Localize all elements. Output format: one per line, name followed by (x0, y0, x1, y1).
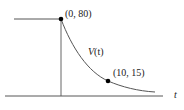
point-10-15 (106, 79, 111, 84)
point-label-0-80: (0, 80) (65, 9, 92, 19)
curve-label-arg: (t) (94, 46, 103, 57)
curve-label: V(t) (88, 47, 104, 57)
point-label-10-15: (10, 15) (113, 68, 145, 78)
axis-label-t: t (174, 90, 177, 100)
point-0-80 (59, 17, 64, 22)
